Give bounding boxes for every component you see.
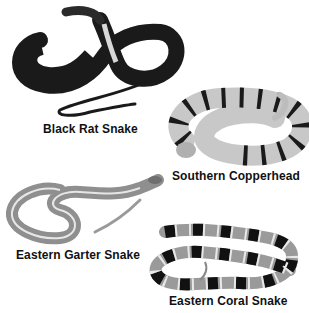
label-eastern-coral-snake: Eastern Coral Snake <box>169 294 288 308</box>
eastern-coral-snake-illustration <box>156 230 293 285</box>
label-black-rat-snake: Black Rat Snake <box>43 122 138 136</box>
label-southern-copperhead: Southern Copperhead <box>172 169 300 183</box>
southern-copperhead-illustration <box>176 95 302 158</box>
snake-figure: Black Rat Snake Southern Copperhead East… <box>0 0 309 313</box>
label-eastern-garter-snake: Eastern Garter Snake <box>16 248 140 262</box>
snake-illustrations <box>0 0 309 313</box>
eastern-garter-snake-illustration <box>12 176 162 238</box>
black-rat-snake-illustration <box>20 10 176 115</box>
